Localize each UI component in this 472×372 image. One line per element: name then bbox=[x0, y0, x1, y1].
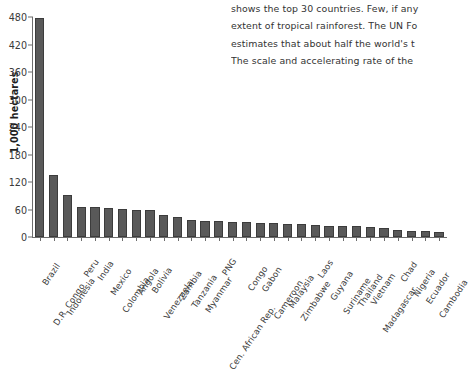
bar[interactable] bbox=[256, 223, 265, 237]
bar[interactable] bbox=[352, 226, 361, 237]
bar-slot[interactable] bbox=[432, 17, 446, 237]
bar-slot[interactable] bbox=[322, 17, 336, 237]
bar-slot[interactable] bbox=[363, 17, 377, 237]
bar[interactable] bbox=[104, 208, 113, 237]
bar-slot[interactable] bbox=[336, 17, 350, 237]
bar-slot[interactable] bbox=[61, 17, 75, 237]
bar-slot[interactable] bbox=[102, 17, 116, 237]
bar-slot[interactable] bbox=[33, 17, 47, 237]
bar-slot[interactable] bbox=[129, 17, 143, 237]
bar[interactable] bbox=[35, 18, 44, 237]
bar[interactable] bbox=[118, 209, 127, 237]
x-axis-labels: BrazilD.R. CongoIndonesiaPeruIndiaMexico… bbox=[33, 241, 446, 319]
bar-slot[interactable] bbox=[157, 17, 171, 237]
bar[interactable] bbox=[242, 222, 251, 237]
bar-slot[interactable] bbox=[226, 17, 240, 237]
bar[interactable] bbox=[173, 217, 182, 237]
bar[interactable] bbox=[297, 224, 306, 237]
bar[interactable] bbox=[379, 228, 388, 237]
bar-slot[interactable] bbox=[267, 17, 281, 237]
bar[interactable] bbox=[393, 230, 402, 237]
bar[interactable] bbox=[145, 210, 154, 237]
bar-slot[interactable] bbox=[171, 17, 185, 237]
bar-slot[interactable] bbox=[391, 17, 405, 237]
bar[interactable] bbox=[311, 225, 320, 237]
bar[interactable] bbox=[324, 226, 333, 237]
bar[interactable] bbox=[338, 226, 347, 237]
bar-slot[interactable] bbox=[377, 17, 391, 237]
x-tick-label: Brazil bbox=[54, 241, 76, 267]
bar-slot[interactable] bbox=[74, 17, 88, 237]
bar-slot[interactable] bbox=[116, 17, 130, 237]
bar[interactable] bbox=[49, 175, 58, 237]
bar-slot[interactable] bbox=[212, 17, 226, 237]
bar[interactable] bbox=[90, 207, 99, 237]
bar[interactable] bbox=[269, 223, 278, 237]
bar[interactable] bbox=[132, 210, 141, 238]
bar[interactable] bbox=[77, 207, 86, 237]
bar[interactable] bbox=[283, 224, 292, 237]
bar[interactable] bbox=[63, 195, 72, 237]
bar-slot[interactable] bbox=[198, 17, 212, 237]
bar-slot[interactable] bbox=[143, 17, 157, 237]
bar[interactable] bbox=[159, 215, 168, 237]
bar-slot[interactable] bbox=[253, 17, 267, 237]
bar-slot[interactable] bbox=[308, 17, 322, 237]
bar-slot[interactable] bbox=[295, 17, 309, 237]
plot-area: 060120180240300360420480 bbox=[33, 17, 446, 237]
bar-slot[interactable] bbox=[350, 17, 364, 237]
bar-series bbox=[33, 17, 446, 237]
bar-slot[interactable] bbox=[405, 17, 419, 237]
bar[interactable] bbox=[200, 221, 209, 238]
bar-slot[interactable] bbox=[239, 17, 253, 237]
bar[interactable] bbox=[366, 227, 375, 237]
bar-slot[interactable] bbox=[184, 17, 198, 237]
bar-slot[interactable] bbox=[418, 17, 432, 237]
bar-slot[interactable] bbox=[281, 17, 295, 237]
bar[interactable] bbox=[187, 220, 196, 237]
bar-slot[interactable] bbox=[47, 17, 61, 237]
bar[interactable] bbox=[214, 221, 223, 237]
bar[interactable] bbox=[228, 222, 237, 237]
bar-slot[interactable] bbox=[88, 17, 102, 237]
